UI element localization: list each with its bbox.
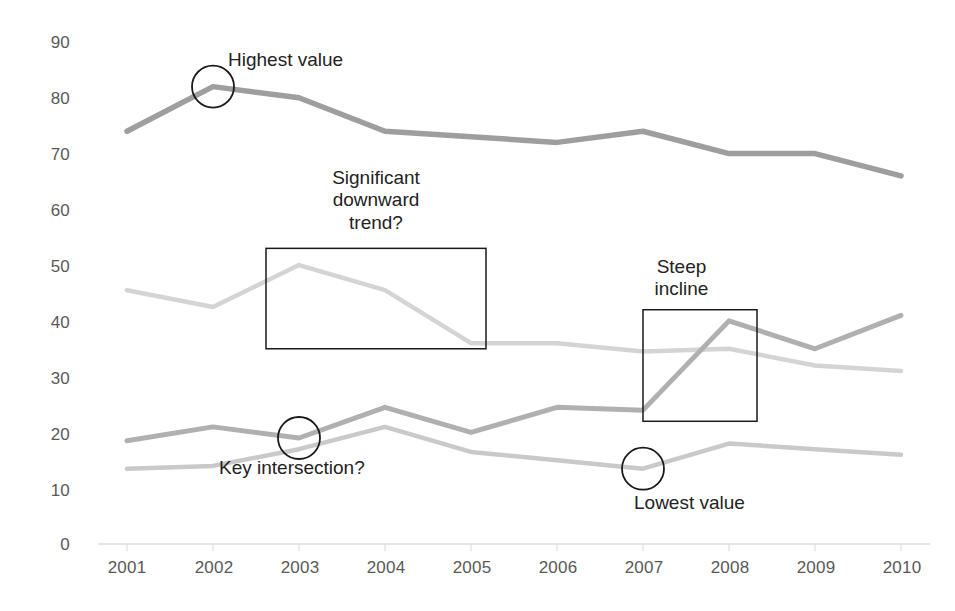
y-tick-50: 50: [24, 257, 70, 277]
y-tick-0: 0: [24, 535, 70, 555]
y-tick-40: 40: [24, 313, 70, 333]
y-tick-90: 90: [24, 33, 70, 53]
x-tick-2002: 2002: [171, 558, 257, 578]
y-tick-70: 70: [24, 145, 70, 165]
series-line-1: [127, 87, 901, 176]
x-tick-2010: 2010: [859, 558, 945, 578]
x-tick-2007: 2007: [601, 558, 687, 578]
annotation-line-3: trend?: [306, 212, 446, 234]
annotation-line-2: incline: [625, 278, 738, 300]
x-tick-2009: 2009: [773, 558, 859, 578]
annotation-significant-downward-trend: Significant downward trend?: [306, 167, 446, 234]
annotation-key-intersection: Key intersection?: [219, 457, 365, 479]
series-line-3: [127, 315, 901, 441]
y-tick-20: 20: [24, 425, 70, 445]
data-series-group: [127, 87, 901, 469]
y-tick-80: 80: [24, 89, 70, 109]
line-chart-figure: 90 80 70 60 50 40 30 20 10 0 2001 2002 2…: [0, 0, 955, 611]
x-tick-2008: 2008: [687, 558, 773, 578]
y-tick-30: 30: [24, 369, 70, 389]
x-tick-2001: 2001: [84, 558, 170, 578]
annotation-highest-value: Highest value: [228, 49, 343, 71]
annotation-line-1: Steep: [625, 256, 738, 278]
annotation-steep-incline: Steep incline: [625, 256, 738, 301]
y-tick-10: 10: [24, 481, 70, 501]
series-line-2: [127, 265, 901, 371]
axis-lines: [98, 544, 930, 551]
annotation-line-2: downward: [306, 189, 446, 211]
x-tick-2005: 2005: [429, 558, 515, 578]
x-tick-2006: 2006: [515, 558, 601, 578]
x-tick-2004: 2004: [343, 558, 429, 578]
annotation-line-1: Significant: [306, 167, 446, 189]
y-tick-60: 60: [24, 201, 70, 221]
chart-plot-area: [0, 0, 955, 611]
x-tick-2003: 2003: [257, 558, 343, 578]
annotation-lowest-value: Lowest value: [634, 492, 745, 514]
